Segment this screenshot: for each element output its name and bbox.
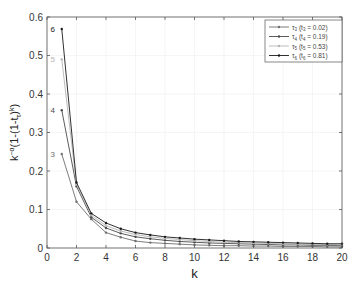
- x-tick-label: 2: [74, 252, 80, 263]
- data-point: [120, 230, 122, 232]
- data-point: [134, 231, 136, 233]
- data-point: [149, 241, 151, 243]
- series-line-4: [62, 110, 342, 246]
- data-point: [326, 243, 328, 245]
- data-point: [134, 236, 136, 238]
- data-point: [105, 222, 107, 224]
- chart-container: 3456 02468101214161820 00.10.20.30.40.50…: [0, 0, 362, 288]
- x-tick-label: 12: [218, 252, 230, 263]
- data-point: [223, 239, 225, 241]
- data-point: [120, 228, 122, 230]
- y-tick-label: 0.2: [29, 166, 43, 177]
- x-tick-label: 4: [103, 252, 109, 263]
- data-point: [179, 243, 181, 245]
- series-start-labels: 3456: [51, 25, 56, 159]
- data-point: [149, 234, 151, 236]
- line-chart: 3456 02468101214161820 00.10.20.30.40.50…: [0, 0, 362, 288]
- data-point: [120, 236, 122, 238]
- series-start-label: 5: [51, 55, 56, 64]
- data-point: [297, 242, 299, 244]
- data-point: [267, 241, 269, 243]
- x-tick-label: 8: [162, 252, 168, 263]
- x-tick-label: 20: [336, 252, 348, 263]
- data-point: [164, 236, 166, 238]
- data-point: [61, 153, 63, 155]
- data-point: [61, 58, 63, 60]
- y-axis-label: k−α(1-(1-tτ)k): [8, 104, 22, 161]
- y-tick-label: 0.3: [29, 127, 43, 138]
- x-tick-label: 0: [44, 252, 50, 263]
- series-line-3: [62, 154, 342, 247]
- data-point: [105, 224, 107, 226]
- series-line-5: [62, 59, 342, 245]
- data-point: [164, 242, 166, 244]
- data-point: [252, 241, 254, 243]
- data-point: [90, 212, 92, 214]
- y-tick-label: 0: [37, 243, 43, 254]
- x-tick-label: 18: [307, 252, 319, 263]
- data-point: [61, 109, 63, 111]
- data-point: [105, 227, 107, 229]
- data-point: [193, 238, 195, 240]
- legend: τ3 (t3 = 0.02)τ4 (t4 = 0.19)τ5 (t5 = 0.5…: [265, 20, 342, 62]
- data-point: [179, 237, 181, 239]
- x-tick-label: 10: [189, 252, 201, 263]
- data-point: [282, 241, 284, 243]
- x-tick-label: 6: [133, 252, 139, 263]
- x-tick-label: 14: [248, 252, 260, 263]
- x-axis-label: k: [191, 266, 198, 281]
- data-point: [238, 240, 240, 242]
- x-tick-label: 16: [277, 252, 289, 263]
- data-point: [75, 181, 77, 183]
- y-tick-label: 0.1: [29, 204, 43, 215]
- y-tick-label: 0.6: [29, 12, 43, 23]
- data-point: [61, 28, 63, 30]
- data-point: [208, 244, 210, 246]
- series-start-label: 6: [51, 25, 56, 34]
- data-point: [134, 240, 136, 242]
- data-point: [311, 242, 313, 244]
- y-tick-label: 0.5: [29, 50, 43, 61]
- series-start-label: 4: [51, 106, 56, 115]
- data-point: [75, 201, 77, 203]
- data-point: [105, 231, 107, 233]
- series-start-label: 3: [51, 150, 56, 159]
- data-point: [120, 232, 122, 234]
- y-tick-label: 0.4: [29, 89, 43, 100]
- data-point: [208, 239, 210, 241]
